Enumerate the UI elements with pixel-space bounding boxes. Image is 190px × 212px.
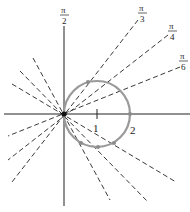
angle-label-pi-over-6: π 6 <box>179 51 188 72</box>
svg-text:π: π <box>139 3 144 13</box>
angle-label-pi-over-4: π 4 <box>168 21 177 42</box>
origin-point <box>61 111 66 116</box>
ray-pi-over-4 <box>8 35 168 160</box>
angle-label-pi-over-3: π 3 <box>138 3 147 24</box>
curve-point-neg-pi-over-6 <box>112 141 116 145</box>
svg-text:π: π <box>180 51 185 61</box>
svg-text:6: 6 <box>181 62 186 72</box>
curve-point-neg-pi-over-4 <box>96 145 100 149</box>
svg-text:2: 2 <box>62 16 67 26</box>
ray-pi-over-3 <box>12 20 138 182</box>
tick-label-2: 2 <box>130 124 136 136</box>
curve-point-neg-pi-over-3 <box>79 141 83 145</box>
svg-text:π: π <box>169 21 174 31</box>
svg-text:π: π <box>61 5 66 15</box>
angle-label-pi-over-2: π 2 <box>60 5 69 26</box>
polar-plot-canvas: 1 2 π 2 π 3 π 4 π 6 <box>0 0 190 212</box>
svg-text:3: 3 <box>140 14 145 24</box>
curve-point-pi-over-3 <box>86 80 90 84</box>
ray-3pi-over-4 <box>20 71 148 202</box>
tick-label-1: 1 <box>93 122 99 134</box>
polar-diagram: 1 2 π 2 π 3 π 4 π 6 <box>0 0 190 212</box>
curve-point-theta-0 <box>128 112 132 116</box>
svg-text:4: 4 <box>170 32 175 42</box>
